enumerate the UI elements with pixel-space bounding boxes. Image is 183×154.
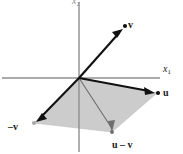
vector-neg-v-endpoint-dot	[32, 121, 36, 125]
vector-v-endpoint-dot	[123, 24, 127, 28]
vector-u-minus-v-endpoint-dot	[110, 130, 114, 134]
label-vector-u: u	[163, 88, 169, 98]
vector-v-arrowhead	[112, 29, 123, 38]
label-x2-axis: x2	[72, 0, 80, 8]
vector-diagram-figure: v u –v u – v x1 x2	[0, 0, 183, 154]
label-x1-axis: x1	[163, 64, 171, 76]
label-vector-v: v	[128, 20, 133, 30]
label-vector-u-minus-v: u – v	[112, 140, 133, 150]
label-x2-subscript: 2	[76, 0, 80, 8]
vector-u-endpoint-dot	[156, 91, 160, 95]
vector-diagram-canvas	[0, 0, 183, 154]
label-vector-neg-v: –v	[8, 122, 18, 132]
label-x1-subscript: 1	[167, 68, 171, 76]
vector-v-shaft	[79, 33, 119, 78]
